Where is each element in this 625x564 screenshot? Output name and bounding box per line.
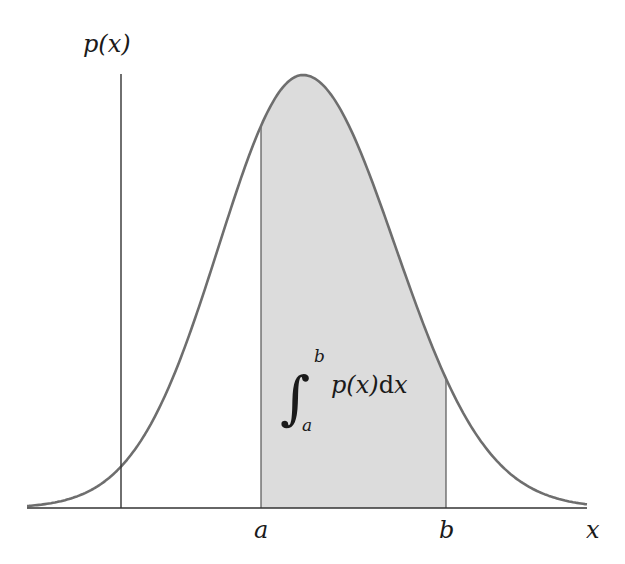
probability-density-figure: p(x) a b x ∫ b a p(x)dx [0,0,625,564]
x-axis-label: x [586,516,600,544]
lower-bound-label: a [254,516,268,544]
integral-upper-limit: b [314,346,325,366]
y-axis-label: p(x) [83,30,131,58]
shaded-integral-region [261,75,446,508]
integrand: p(x)dx [331,371,408,399]
integral-lower-limit: a [302,415,312,435]
upper-bound-label: b [439,516,454,544]
